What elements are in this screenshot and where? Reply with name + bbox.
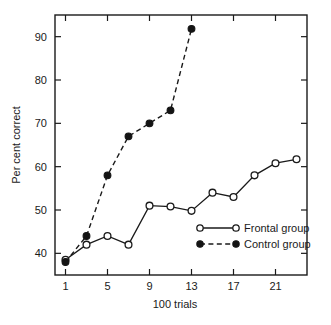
x-axis-title: 100 trials (153, 298, 198, 310)
y-tick-label: 60 (35, 161, 47, 173)
x-tick-label: 13 (185, 280, 197, 292)
data-point (209, 189, 216, 196)
plot-frame (55, 15, 307, 275)
series-line (66, 29, 192, 262)
data-point (188, 25, 195, 32)
data-point (146, 120, 153, 127)
y-axis-title: Per cent correct (10, 106, 22, 184)
x-tick-label: 1 (62, 280, 68, 292)
data-point (125, 241, 132, 248)
line-chart: 159131721405060708090100 trialsPer cent … (0, 0, 331, 325)
legend-sample-marker (197, 241, 203, 247)
data-point (230, 194, 237, 201)
x-tick-label: 9 (146, 280, 152, 292)
data-point (125, 133, 132, 140)
data-point (167, 203, 174, 210)
legend-sample-marker (197, 225, 203, 231)
data-point (272, 160, 279, 167)
chart-figure: 159131721405060708090100 trialsPer cent … (0, 0, 331, 325)
data-point (83, 241, 90, 248)
y-tick-label: 40 (35, 247, 47, 259)
x-tick-label: 21 (269, 280, 281, 292)
data-point (104, 233, 111, 240)
legend-sample-marker (233, 241, 239, 247)
data-point (188, 207, 195, 214)
chart-legend: Frontal groupControl group (197, 222, 311, 250)
x-tick-label: 5 (104, 280, 110, 292)
data-point (167, 107, 174, 114)
legend-label: Control group (244, 238, 311, 250)
y-tick-label: 80 (35, 74, 47, 86)
data-point (146, 202, 153, 209)
y-tick-label: 50 (35, 204, 47, 216)
data-point (83, 233, 90, 240)
series-2 (62, 25, 195, 265)
data-point (293, 156, 300, 163)
data-point (62, 259, 69, 266)
legend-label: Frontal group (244, 222, 309, 234)
y-tick-label: 90 (35, 31, 47, 43)
x-tick-label: 17 (227, 280, 239, 292)
data-point (104, 172, 111, 179)
data-point (251, 172, 258, 179)
y-tick-label: 70 (35, 117, 47, 129)
legend-sample-marker (233, 225, 239, 231)
